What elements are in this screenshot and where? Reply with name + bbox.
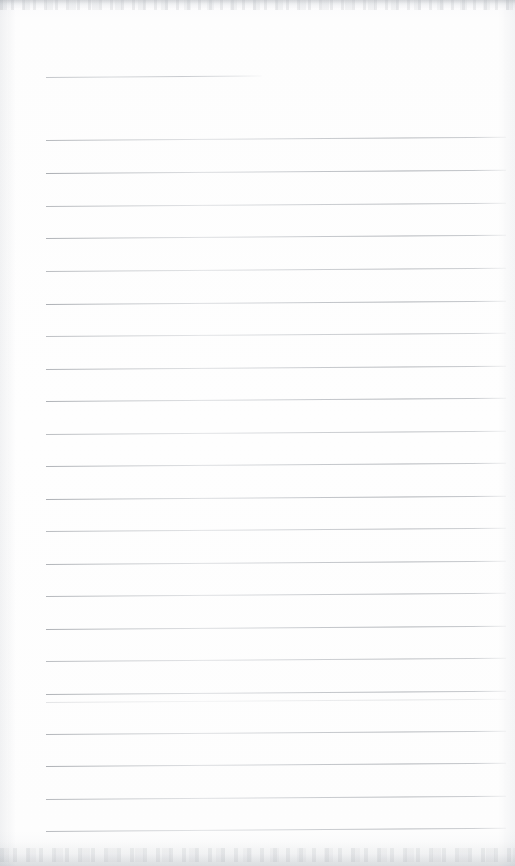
ruled-line (46, 203, 506, 207)
ruled-line (46, 398, 506, 402)
ruled-line (46, 333, 506, 337)
ruled-line (46, 170, 506, 174)
ruled-line (46, 463, 506, 467)
scan-edge-bottom-shadow (0, 840, 515, 866)
ruled-line (46, 626, 506, 630)
ruled-line (46, 528, 506, 532)
ruled-line (46, 828, 506, 832)
ruled-line (46, 431, 506, 435)
ruled-line (46, 235, 506, 239)
ruled-line (46, 496, 506, 500)
ruled-line (46, 796, 506, 800)
ruled-line (46, 763, 506, 767)
ruled-line (46, 268, 506, 272)
ruled-line (46, 137, 506, 141)
ruled-line-group (0, 0, 515, 866)
ruled-line (46, 593, 506, 597)
ruled-line (46, 731, 506, 735)
ruled-line (46, 561, 506, 565)
ruled-line (46, 691, 506, 695)
ruled-line (46, 699, 506, 703)
ruled-line (46, 366, 506, 370)
ruled-line (46, 75, 262, 78)
ruled-line (46, 658, 506, 662)
ruled-line (46, 301, 506, 305)
scanned-page (0, 0, 515, 866)
